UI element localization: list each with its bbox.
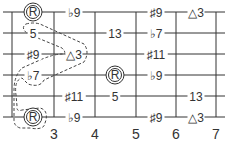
note-marker: 13 <box>107 27 124 41</box>
note-label: ♯9 <box>150 111 163 125</box>
note-marker: ♭7 <box>25 69 42 83</box>
root-note-marker: R <box>106 66 124 84</box>
note-label: ♭9 <box>150 69 163 83</box>
note-label: 5 <box>30 27 37 41</box>
fret-number: 4 <box>91 126 99 142</box>
note-label: 13 <box>108 27 122 41</box>
note-marker: △3 <box>66 48 83 62</box>
note-label: ♭7 <box>27 69 40 83</box>
note-label: ♯9 <box>150 6 163 20</box>
note-label: R <box>111 68 120 82</box>
note-marker: ♭9 <box>66 6 83 20</box>
note-label: △3 <box>66 48 82 62</box>
root-note-marker: R <box>24 3 42 21</box>
note-label: ♭7 <box>150 27 163 41</box>
note-marker: ♯9 <box>25 48 42 62</box>
note-marker: 13 <box>188 90 205 104</box>
note-label: △3 <box>188 6 204 20</box>
note-marker: ♭9 <box>148 69 165 83</box>
note-label: ♭9 <box>68 111 81 125</box>
root-note-marker: R <box>24 108 42 126</box>
note-marker: ♯9 <box>148 111 165 125</box>
fret-number: 5 <box>132 126 140 142</box>
note-markers: R♭9♯9△3513♭7♯9△3♯11♭7R♭9♯11513R♭9♯9△3 <box>24 3 205 126</box>
note-marker: ♯11 <box>144 48 168 62</box>
note-label: R <box>29 5 38 19</box>
note-marker: ♭9 <box>66 111 83 125</box>
note-label: ♯11 <box>147 48 166 62</box>
note-marker: 5 <box>28 27 39 41</box>
fret-number: 6 <box>172 126 180 142</box>
note-label: ♯11 <box>65 90 84 104</box>
fret-number: 3 <box>50 126 58 142</box>
note-marker: ♭7 <box>148 27 165 41</box>
note-label: ♭9 <box>68 6 81 20</box>
note-label: 13 <box>189 90 203 104</box>
fretboard-diagram: R♭9♯9△3513♭7♯9△3♯11♭7R♭9♯11513R♭9♯9△3 34… <box>0 0 230 146</box>
note-marker: △3 <box>188 111 205 125</box>
note-marker: ♯9 <box>148 6 165 20</box>
note-label: ♯9 <box>27 48 40 62</box>
note-marker: 5 <box>110 90 121 104</box>
note-marker: ♯11 <box>62 90 86 104</box>
note-label: △3 <box>188 111 204 125</box>
note-marker: △3 <box>188 6 205 20</box>
fret-number: 7 <box>212 126 220 142</box>
fret-numbers: 34567 <box>50 126 220 142</box>
note-label: 5 <box>112 90 119 104</box>
note-label: R <box>29 110 38 124</box>
